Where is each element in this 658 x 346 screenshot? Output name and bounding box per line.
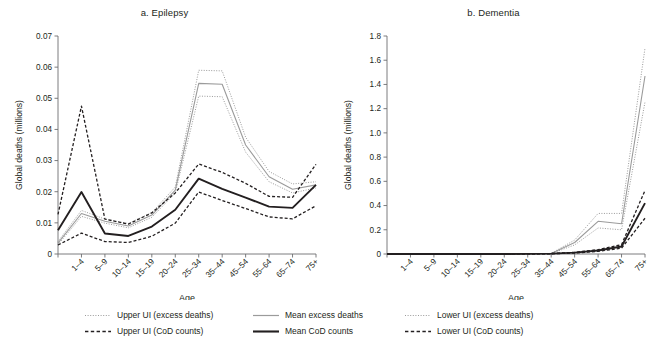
x-tick-label: 15–19 <box>463 257 486 280</box>
x-tick-label: 45–54 <box>557 257 580 280</box>
legend-label: Lower UI (excess deaths) <box>437 311 533 320</box>
legend-label: Upper UI (excess deaths) <box>117 311 213 320</box>
y-tick-label: 0.4 <box>370 201 382 210</box>
series-line <box>58 70 316 241</box>
y-tick-label: 0.01 <box>36 219 52 228</box>
y-tick-label: 0 <box>376 250 381 259</box>
series-line <box>58 96 316 245</box>
legend-item-lower-ui-excess-deaths: Lower UI (excess deaths) <box>405 311 573 320</box>
series-line <box>387 102 645 254</box>
y-tick-label: 0.8 <box>370 153 382 162</box>
x-tick-label: 15–19 <box>134 257 157 280</box>
series-line <box>387 203 645 254</box>
x-tick-label: 75+ <box>633 257 649 273</box>
y-tick-label: 1.6 <box>370 56 382 65</box>
x-tick-label: 75+ <box>304 257 320 273</box>
legend-swatch-dashed-black <box>85 327 111 336</box>
x-tick-label: 35–44 <box>204 257 227 280</box>
series-line <box>387 76 645 254</box>
panels-container: a. Epilepsy 00.010.020.030.040.050.060.0… <box>0 0 658 300</box>
y-tick-label: 0 <box>47 250 52 259</box>
x-tick-label: 35–44 <box>533 257 556 280</box>
x-axis-title: Age <box>508 293 524 300</box>
legend-item-upper-ui-cod-counts: Upper UI (CoD counts) <box>85 327 253 336</box>
x-tick-label: 5–9 <box>93 257 109 273</box>
x-tick-label: 55–64 <box>580 257 603 280</box>
legend: Upper UI (excess deaths) Mean excess dea… <box>0 306 658 346</box>
legend-swatch-solid-black <box>253 327 279 336</box>
y-tick-label: 1.8 <box>370 32 382 41</box>
y-tick-label: 1.4 <box>370 80 382 89</box>
x-tick-label: 20–24 <box>157 257 180 280</box>
figure-epilepsy-dementia-global-deaths: a. Epilepsy 00.010.020.030.040.050.060.0… <box>0 0 658 346</box>
y-tick-label: 0.05 <box>36 94 52 103</box>
series-line <box>387 48 645 254</box>
legend-item-mean-excess-deaths: Mean excess deaths <box>253 311 405 320</box>
x-tick-label: 10–14 <box>110 257 133 280</box>
legend-label: Lower UI (CoD counts) <box>437 327 523 336</box>
legend-label: Mean CoD counts <box>285 327 353 336</box>
x-tick-label: 25–34 <box>510 257 533 280</box>
x-tick-label: 65–74 <box>603 257 626 280</box>
y-tick-label: 0.07 <box>36 32 52 41</box>
legend-row-cod-counts: Upper UI (CoD counts) Mean CoD counts Lo… <box>0 323 658 339</box>
legend-swatch-dashed-black <box>405 327 431 336</box>
legend-swatch-dotted-gray <box>85 311 111 320</box>
x-tick-label: 1–4 <box>70 257 86 273</box>
x-tick-label: 55–64 <box>251 257 274 280</box>
x-tick-label: 10–14 <box>439 257 462 280</box>
x-tick-label: 1–4 <box>399 257 415 273</box>
y-tick-label: 0.2 <box>370 226 382 235</box>
panel-b-dementia: b. Dementia 00.20.40.60.81.01.21.41.61.8… <box>329 0 658 300</box>
x-axis-title: Age <box>179 293 195 300</box>
legend-item-lower-ui-cod-counts: Lower UI (CoD counts) <box>405 327 573 336</box>
y-tick-label: 1.0 <box>370 129 382 138</box>
panel-b-plot: 00.20.40.60.81.01.21.41.61.81–45–910–141… <box>329 0 658 300</box>
panel-a-plot: 00.010.020.030.040.050.060.071–45–910–14… <box>0 0 329 300</box>
legend-item-upper-ui-excess-deaths: Upper UI (excess deaths) <box>85 311 253 320</box>
y-axis-title: Global deaths (millions) <box>14 100 24 190</box>
y-tick-label: 0.06 <box>36 63 52 72</box>
legend-item-mean-cod-counts: Mean CoD counts <box>253 327 405 336</box>
y-tick-label: 1.2 <box>370 104 382 113</box>
y-tick-label: 0.02 <box>36 188 52 197</box>
x-tick-label: 20–24 <box>486 257 509 280</box>
legend-swatch-dotted-gray <box>405 311 431 320</box>
legend-label: Upper UI (CoD counts) <box>117 327 203 336</box>
y-tick-label: 0.04 <box>36 125 52 134</box>
y-axis-title: Global deaths (millions) <box>343 100 353 190</box>
x-tick-label: 25–34 <box>181 257 204 280</box>
panel-a-title: a. Epilepsy <box>0 7 329 18</box>
panel-b-title: b. Dementia <box>329 7 658 18</box>
legend-swatch-solid-gray <box>253 311 279 320</box>
x-tick-label: 65–74 <box>274 257 297 280</box>
legend-label: Mean excess deaths <box>285 311 363 320</box>
y-tick-label: 0.03 <box>36 156 52 165</box>
legend-row-excess-deaths: Upper UI (excess deaths) Mean excess dea… <box>0 307 658 323</box>
x-tick-label: 45–54 <box>228 257 251 280</box>
x-tick-label: 5–9 <box>422 257 438 273</box>
panel-a-epilepsy: a. Epilepsy 00.010.020.030.040.050.060.0… <box>0 0 329 300</box>
y-tick-label: 0.6 <box>370 177 382 186</box>
